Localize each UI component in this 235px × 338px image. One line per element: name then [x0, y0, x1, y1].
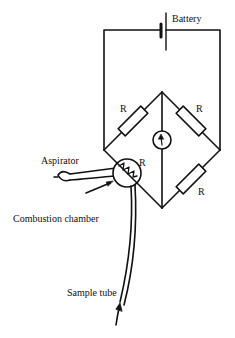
chamber-pointer-arrow-icon [86, 181, 113, 193]
resistor-label-chamber: R [139, 157, 146, 168]
sample-tube [120, 185, 136, 305]
combustion-chamber-label: Combustion chamber [13, 213, 99, 224]
resistor-label-top-right: R [196, 103, 203, 114]
sample-inflow-arrow-icon [116, 303, 122, 325]
resistor-bottom-right [162, 150, 220, 208]
bridge-circuit-diagram: Battery R R R R Aspirator Combustion cha… [0, 0, 235, 338]
galvanometer-icon [153, 131, 171, 149]
resistor-label-bottom-right: R [198, 186, 205, 197]
resistor-label-top-left: R [120, 103, 127, 114]
battery-label: Battery [172, 13, 201, 24]
sample-tube-label: Sample tube [67, 287, 117, 298]
battery-icon [161, 13, 166, 50]
aspirator-tube [70, 168, 117, 180]
aspirator-bulb-icon [54, 172, 70, 181]
combustion-chamber [113, 159, 141, 187]
aspirator-label: Aspirator [41, 155, 79, 166]
